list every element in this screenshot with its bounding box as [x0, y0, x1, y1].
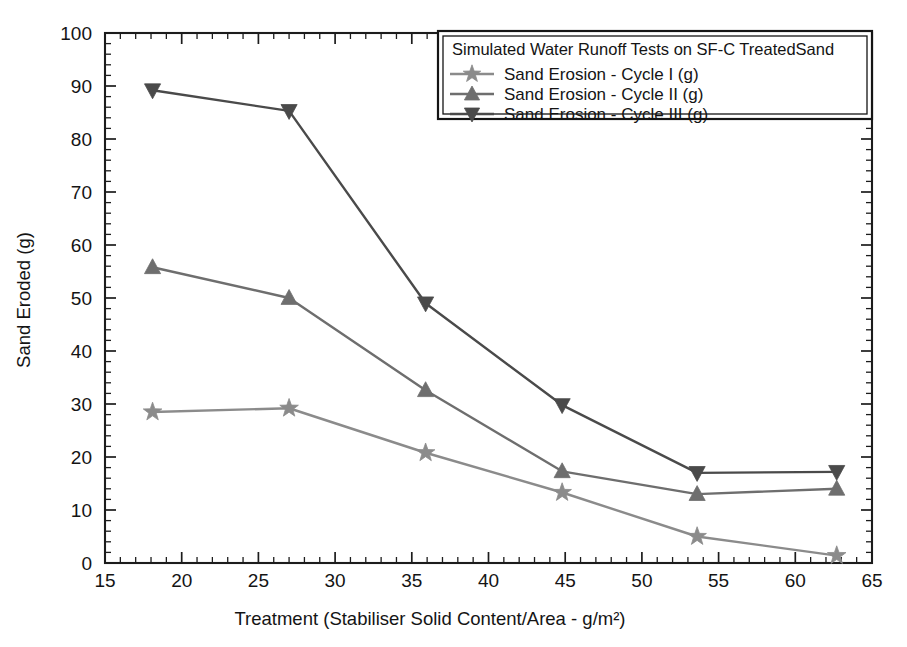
- legend-title: Simulated Water Runoff Tests on SF-C Tre…: [452, 40, 834, 58]
- x-tick-label: 30: [325, 570, 346, 591]
- x-tick-label: 55: [708, 570, 729, 591]
- chart-legend: Simulated Water Runoff Tests on SF-C Tre…: [438, 31, 872, 124]
- x-tick-label: 60: [785, 570, 806, 591]
- y-tick-label: 30: [71, 394, 92, 415]
- data-point-marker: [554, 399, 570, 414]
- y-axis-title: Sand Eroded (g): [13, 232, 34, 368]
- x-tick-label: 20: [171, 570, 192, 591]
- y-tick-label: 100: [60, 23, 92, 44]
- series-1: [143, 398, 846, 563]
- y-tick-label: 50: [71, 288, 92, 309]
- legend-entry-label: Sand Erosion - Cycle II (g): [504, 85, 703, 104]
- x-tick-label: 50: [631, 570, 652, 591]
- series-line: [153, 267, 837, 494]
- x-tick-label: 15: [94, 570, 115, 591]
- data-series-group: [143, 84, 846, 564]
- y-axis-tick-labels: 0102030405060708090100: [60, 23, 92, 574]
- x-tick-label: 35: [401, 570, 422, 591]
- data-point-marker: [553, 483, 572, 501]
- x-tick-label: 25: [248, 570, 269, 591]
- data-point-marker: [144, 259, 160, 274]
- data-point-marker: [554, 463, 570, 478]
- data-point-marker: [143, 402, 162, 420]
- y-tick-label: 80: [71, 129, 92, 150]
- series-2: [144, 259, 844, 501]
- y-tick-label: 40: [71, 341, 92, 362]
- y-tick-label: 70: [71, 182, 92, 203]
- series-3: [144, 84, 844, 482]
- series-line: [153, 90, 837, 473]
- x-tick-label: 40: [478, 570, 499, 591]
- x-axis-title: Treatment (Stabiliser Solid Content/Area…: [234, 608, 625, 629]
- data-point-marker: [827, 546, 846, 564]
- y-tick-label: 60: [71, 235, 92, 256]
- data-point-marker: [418, 297, 434, 312]
- x-tick-label: 45: [555, 570, 576, 591]
- x-tick-label: 65: [861, 570, 882, 591]
- line-chart: 1520253035404550556065 01020304050607080…: [0, 0, 907, 647]
- y-tick-label: 0: [81, 553, 92, 574]
- y-tick-label: 20: [71, 447, 92, 468]
- data-point-marker: [280, 398, 299, 416]
- data-point-marker: [829, 480, 845, 495]
- chart-figure: 1520253035404550556065 01020304050607080…: [0, 0, 907, 647]
- y-tick-label: 90: [71, 76, 92, 97]
- x-axis-tick-labels: 1520253035404550556065: [94, 570, 882, 591]
- data-point-marker: [416, 443, 435, 461]
- data-point-marker: [418, 382, 434, 397]
- legend-entry-label: Sand Erosion - Cycle III (g): [504, 105, 708, 124]
- legend-entry-label: Sand Erosion - Cycle I (g): [504, 65, 699, 84]
- data-point-marker: [688, 527, 707, 545]
- y-tick-label: 10: [71, 500, 92, 521]
